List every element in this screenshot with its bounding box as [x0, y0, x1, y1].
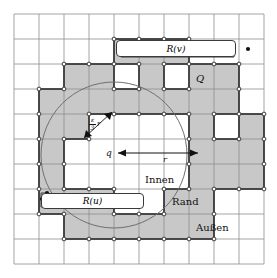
label-box-R-v: R(v): [116, 40, 236, 57]
label-rand: Rand: [172, 196, 199, 207]
label-Q: Q: [196, 73, 204, 84]
label-r: r: [163, 155, 167, 164]
label-R-v-text: R(v): [167, 44, 186, 54]
epsilon-numerator: ε: [91, 117, 94, 123]
label-R-u-text: R(u): [83, 196, 103, 206]
label-box-R-u: R(u): [41, 193, 144, 209]
label-aussen: Außen: [196, 222, 229, 233]
label-epsilon-third-r: ε 3 r: [89, 117, 100, 131]
r-measure-arrow: [118, 150, 198, 157]
figure-canvas: R(v) R(u) Q q r ε 3 r Innen Rand Außen: [0, 0, 277, 278]
three-denominator: 3: [91, 125, 95, 131]
label-q: q: [106, 148, 112, 158]
label-innen: Innen: [145, 174, 174, 185]
epsilon-third-r-tail: r: [97, 120, 100, 128]
epsilon-third-fraction: ε 3: [89, 117, 96, 131]
